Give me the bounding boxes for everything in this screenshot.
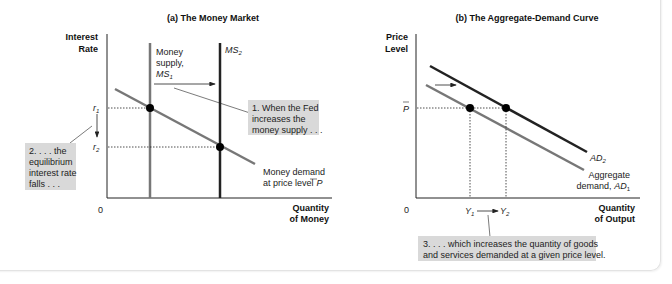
note2-text: falls . . . <box>29 179 60 189</box>
note1-text: 1. When the Fed <box>252 103 319 113</box>
note2-text: equilibrium <box>29 157 73 167</box>
ms2-label: MS2 <box>225 45 243 56</box>
money-demand-curve <box>115 89 255 164</box>
y2-label: Y2 <box>500 206 510 217</box>
note1-pointer <box>174 88 250 113</box>
note2-text: 2. . . . the <box>29 146 67 156</box>
equilibrium-point-1 <box>146 104 154 112</box>
y1-label: Y1 <box>465 206 474 217</box>
y-axis-label: Interest <box>65 32 98 42</box>
ms1-label: MS1 <box>156 69 173 80</box>
x-axis-label: of Money <box>290 214 330 224</box>
panel-aggregate-demand: (b) The Aggregate-Demand Curve Price Lev… <box>385 13 640 261</box>
panel-a-title: (a) The Money Market <box>167 13 259 23</box>
ad1-label: Aggregate <box>588 170 630 180</box>
note3-text: and services demanded at a given price l… <box>423 250 606 260</box>
y-axis-label: Level <box>385 44 408 54</box>
panel-b-title: (b) The Aggregate-Demand Curve <box>455 13 598 23</box>
note2-text: interest rate <box>29 168 77 178</box>
ms1-label: Money <box>156 47 184 57</box>
money-demand-label: Money demand <box>263 167 325 177</box>
note1-text: increases the <box>252 114 306 124</box>
note2-pointer <box>70 126 92 143</box>
origin-label: 0 <box>98 205 103 215</box>
note3-pointer <box>488 215 490 237</box>
y-axis-label: Price <box>386 32 408 42</box>
money-demand-label: at price levelP <box>263 178 323 188</box>
p-label: P <box>403 104 409 114</box>
ad1-point <box>466 104 474 112</box>
ms1-label: supply, <box>156 58 184 68</box>
note1-text: money supply . . . <box>252 125 323 135</box>
r1-label: r1 <box>93 103 99 114</box>
r2-label: r2 <box>93 142 100 153</box>
equilibrium-point-2 <box>216 143 224 151</box>
figure-canvas: (a) The Money Market Interest Rate 0 Qua… <box>0 0 672 284</box>
ad2-point <box>502 104 510 112</box>
x-axis-label: of Output <box>595 214 635 224</box>
ad1-label: demand, AD1 <box>577 181 631 192</box>
ad1-curve <box>426 85 584 170</box>
x-axis-label: Quantity <box>292 203 329 213</box>
x-axis-label: Quantity <box>598 203 635 213</box>
y-axis-label: Rate <box>78 44 98 54</box>
origin-label: 0 <box>404 205 409 215</box>
note3-text: 3. . . . which increases the quantity of… <box>423 239 599 249</box>
panel-money-market: (a) The Money Market Interest Rate 0 Qua… <box>25 13 332 224</box>
ad2-label: AD2 <box>589 153 607 164</box>
